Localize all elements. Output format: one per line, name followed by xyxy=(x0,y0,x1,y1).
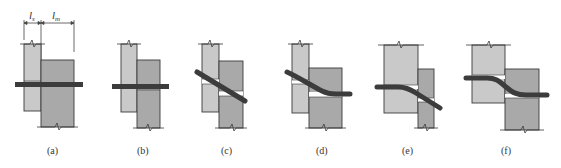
panel-label: (a) xyxy=(47,145,58,157)
thin-plate xyxy=(24,44,41,111)
thick-plate xyxy=(309,68,342,128)
dimension-ls-label: ls xyxy=(29,9,35,23)
thick-plate xyxy=(384,45,418,113)
panel-e: (e) xyxy=(377,41,440,157)
panel-label: (b) xyxy=(137,145,149,157)
thick-plate xyxy=(137,60,160,128)
panel-c: (c) xyxy=(197,40,247,157)
panel-label: (c) xyxy=(221,145,232,157)
panel-label: (d) xyxy=(316,145,328,157)
bolt xyxy=(112,84,169,89)
dimension-lm-label: lm xyxy=(52,9,60,23)
thick-plate xyxy=(41,60,74,127)
thin-plate xyxy=(121,44,137,112)
plate-left xyxy=(472,45,505,103)
panel-label: (e) xyxy=(402,145,413,157)
panel-label: (f) xyxy=(501,145,511,157)
panel-b: (b) xyxy=(112,40,169,157)
panel-f: (f) xyxy=(466,41,547,157)
plate-right xyxy=(505,69,539,130)
panel-a: ls lm (a) xyxy=(15,9,83,157)
bolt xyxy=(15,82,83,87)
bolt-deformation-figure: ls lm (a) (b) (c) xyxy=(0,0,561,168)
panel-d: (d) xyxy=(287,40,350,157)
